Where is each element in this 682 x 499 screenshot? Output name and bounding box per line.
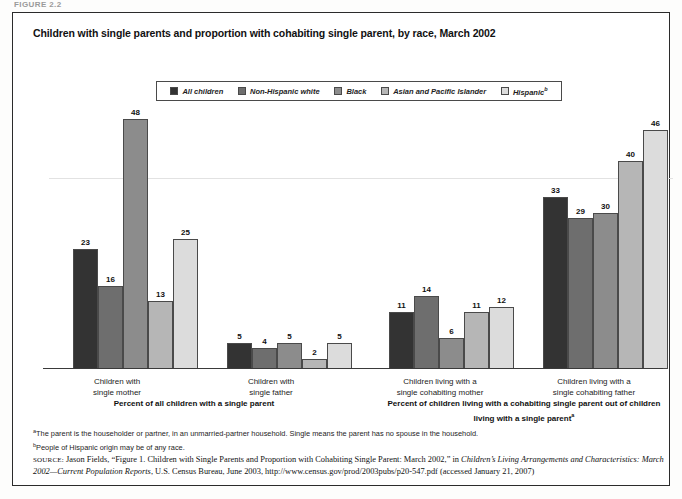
footnote-0: aThe parent is the householder or partne… — [33, 426, 663, 440]
bar-value-label: 12 — [489, 296, 514, 305]
category-label-0: Children withsingle mother — [49, 377, 185, 398]
bar-column: 11 — [389, 109, 414, 369]
bar[interactable] — [98, 286, 123, 369]
legend-item-2: Black — [334, 87, 366, 96]
legend-label: Asian and Pacific Islander — [393, 87, 486, 96]
page-title: Children with single parents and proport… — [33, 27, 496, 39]
bar-column: 29 — [568, 109, 593, 369]
bar-value-label: 2 — [302, 348, 327, 357]
bar-column: 48 — [123, 109, 148, 369]
category-label-3: Children living with asingle cohabiting … — [519, 377, 669, 398]
bar-column: 4 — [252, 109, 277, 369]
bar[interactable] — [277, 343, 302, 369]
source-citation: SOURCE: Jason Fields, “Figure 1. Childre… — [33, 454, 667, 478]
legend-label: All children — [182, 87, 223, 96]
bar-column: 2 — [302, 109, 327, 369]
section-label-1: Percent of children living with a cohabi… — [379, 399, 669, 424]
legend-swatch-icon — [501, 87, 509, 95]
legend-item-1: Non-Hispanic white — [238, 87, 320, 96]
bar-group-2: 111461112 — [389, 109, 514, 369]
figure-page: FIGURE 2.2 Children with single parents … — [0, 0, 682, 499]
legend-swatch-icon — [334, 87, 342, 95]
bar[interactable] — [439, 338, 464, 369]
bar-value-label: 23 — [73, 238, 98, 247]
category-label-1: Children withsingle father — [203, 377, 339, 398]
legend-label: Non-Hispanic white — [250, 87, 320, 96]
bar-column: 23 — [73, 109, 98, 369]
bar-value-label: 14 — [414, 285, 439, 294]
bar[interactable] — [414, 296, 439, 369]
bar-column: 40 — [618, 109, 643, 369]
bar-column: 16 — [98, 109, 123, 369]
bar-value-label: 13 — [148, 290, 173, 299]
bar-value-label: 16 — [98, 275, 123, 284]
legend-swatch-icon — [238, 87, 246, 95]
category-label-2: Children living with asingle cohabiting … — [365, 377, 515, 398]
footnote-1: bPeople of Hispanic origin may be of any… — [33, 440, 663, 454]
bar-value-label: 5 — [277, 332, 302, 341]
bar-value-label: 25 — [173, 228, 198, 237]
legend-swatch-icon — [170, 87, 178, 95]
bar-value-label: 40 — [618, 150, 643, 159]
bar-value-label: 48 — [123, 108, 148, 117]
bar-column: 5 — [277, 109, 302, 369]
bar[interactable] — [618, 161, 643, 369]
section-label-0: Percent of all children with a single pa… — [49, 399, 339, 410]
bar-column: 14 — [414, 109, 439, 369]
bar-column: 6 — [439, 109, 464, 369]
bar[interactable] — [543, 197, 568, 369]
bar[interactable] — [643, 130, 668, 369]
bar-value-label: 5 — [327, 332, 352, 341]
legend-swatch-icon — [381, 87, 389, 95]
bar[interactable] — [568, 218, 593, 369]
bar-column: 30 — [593, 109, 618, 369]
bar-value-label: 11 — [389, 301, 414, 310]
legend-item-0: All children — [170, 87, 223, 96]
figure-frame: Children with single parents and proport… — [12, 12, 670, 486]
figure-tag: FIGURE 2.2 — [14, 0, 62, 9]
bar-value-label: 11 — [464, 301, 489, 310]
bar-column: 12 — [489, 109, 514, 369]
bar[interactable] — [227, 343, 252, 369]
bar-value-label: 29 — [568, 207, 593, 216]
bar[interactable] — [148, 301, 173, 369]
bar-group-3: 3329304046 — [543, 109, 668, 369]
bar-group-1: 54525 — [227, 109, 352, 369]
bar-column: 5 — [327, 109, 352, 369]
bar-group-0: 2316481325 — [73, 109, 198, 369]
source-publication-title: Children’s Living Arrangements and Chara… — [33, 455, 664, 476]
bar[interactable] — [173, 239, 198, 369]
legend-label: Hispanicb — [513, 86, 548, 97]
bar[interactable] — [489, 307, 514, 369]
source-prefix: SOURCE: — [33, 456, 64, 464]
bar-column: 5 — [227, 109, 252, 369]
bar-value-label: 6 — [439, 327, 464, 336]
bar[interactable] — [123, 119, 148, 369]
bar-value-label: 46 — [643, 119, 668, 128]
bar[interactable] — [252, 348, 277, 369]
plot-area: 2316481325545251114611123329304046 — [49, 109, 673, 369]
bar-column: 13 — [148, 109, 173, 369]
bar[interactable] — [327, 343, 352, 369]
bar-column: 33 — [543, 109, 568, 369]
bar-value-label: 30 — [593, 202, 618, 211]
bar[interactable] — [389, 312, 414, 369]
footnotes: aThe parent is the householder or partne… — [33, 426, 663, 454]
bar[interactable] — [73, 249, 98, 369]
bar-value-label: 4 — [252, 337, 277, 346]
bar[interactable] — [464, 312, 489, 369]
bar-column: 11 — [464, 109, 489, 369]
bar[interactable] — [593, 213, 618, 369]
chart-legend: All childrenNon-Hispanic whiteBlackAsian… — [156, 81, 562, 101]
bar-value-label: 33 — [543, 186, 568, 195]
x-axis-baseline — [43, 368, 663, 369]
bar-value-label: 5 — [227, 332, 252, 341]
bar-column: 25 — [173, 109, 198, 369]
legend-label: Black — [346, 87, 366, 96]
legend-item-4: Hispanicb — [501, 86, 548, 97]
legend-item-3: Asian and Pacific Islander — [381, 87, 486, 96]
bar-column: 46 — [643, 109, 668, 369]
